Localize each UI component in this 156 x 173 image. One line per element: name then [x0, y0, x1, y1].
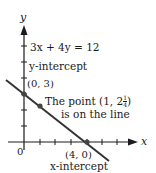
x-axis-label: x	[141, 136, 147, 147]
x-intercept-point	[84, 139, 89, 144]
point-one-two-quarter	[37, 103, 42, 108]
origin-label: 0	[17, 147, 23, 157]
y-axis-arrow-icon	[21, 25, 28, 35]
graph-canvas	[0, 0, 156, 173]
y-intercept-coords: (0, 3)	[27, 79, 54, 89]
line-graph-figure: y 3x + 4y = 12 y-intercept (0, 3) The po…	[0, 0, 156, 173]
point-note-suffix: )	[127, 95, 131, 107]
y-axis-label: y	[20, 12, 26, 23]
y-intercept-point	[21, 91, 26, 96]
x-intercept-label: x-intercept	[50, 161, 108, 172]
point-note-prefix: The point (1, 2	[45, 95, 123, 107]
x-intercept-coords: (4, 0)	[65, 150, 92, 160]
equation-label: 3x + 4y = 12	[30, 42, 100, 53]
point-note-line1: The point (1, 214)	[45, 95, 131, 108]
y-intercept-label: y-intercept	[29, 61, 87, 72]
point-note-line2: is on the line	[61, 109, 130, 120]
x-axis-arrow-icon	[128, 139, 138, 146]
